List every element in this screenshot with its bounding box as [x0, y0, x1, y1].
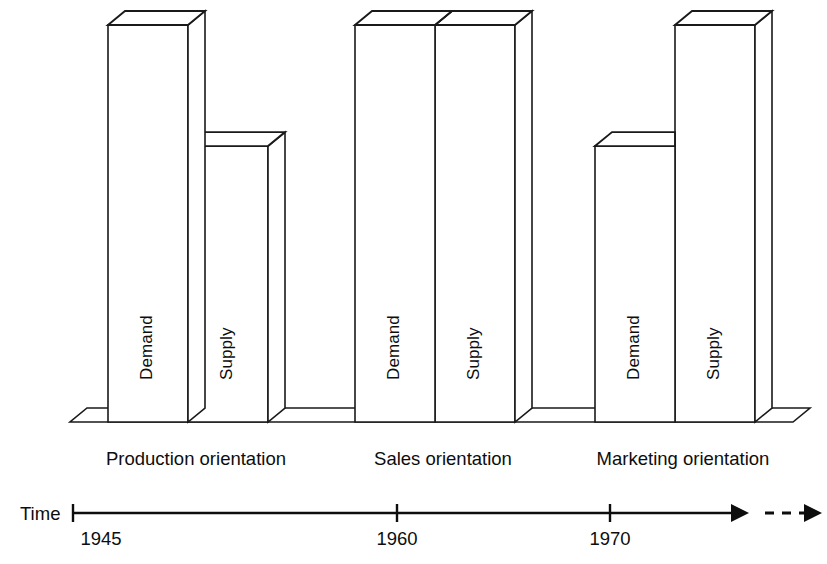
bar-side-face	[515, 11, 532, 422]
bar-side-face	[268, 132, 285, 422]
axis-tick-label: 1970	[589, 528, 630, 549]
group-label: Marketing orientation	[597, 448, 770, 469]
bar-sales-supply	[435, 11, 532, 422]
group-label: Production orientation	[106, 448, 286, 469]
time-axis: Time194519601970	[20, 503, 822, 549]
axis-tick-label: 1945	[80, 528, 121, 549]
axis-arrowhead	[731, 504, 749, 522]
bar-series-label: Demand	[137, 315, 156, 380]
bar-series-label: Demand	[384, 315, 403, 380]
bars-layer	[108, 11, 772, 422]
axis-tick-label: 1960	[376, 528, 417, 549]
bar-series-label: Supply	[217, 327, 236, 380]
bar-series-label: Supply	[464, 327, 483, 380]
bar-top-face	[675, 11, 772, 25]
bar-production-demand	[108, 11, 205, 422]
bar-side-face	[188, 11, 205, 422]
chart-figure: DemandSupplyDemandSupplyDemandSupply Pro…	[0, 0, 827, 564]
axis-dashed-arrowhead	[804, 504, 822, 522]
bar-side-face	[755, 11, 772, 422]
bar-series-label: Supply	[704, 327, 723, 380]
bar-series-label: Demand	[624, 315, 643, 380]
time-axis-label: Time	[20, 503, 60, 524]
bar-top-face	[108, 11, 205, 25]
bar-marketing-supply	[675, 11, 772, 422]
group-label: Sales orientation	[374, 448, 512, 469]
bar-top-face	[595, 132, 675, 146]
three-d-bar-chart: DemandSupplyDemandSupplyDemandSupply Pro…	[0, 0, 827, 564]
group-labels-layer: Production orientationSales orientationM…	[106, 448, 769, 469]
